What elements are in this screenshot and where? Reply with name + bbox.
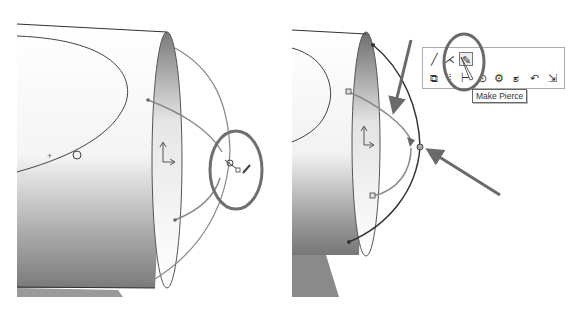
copy-entities-icon[interactable]: ⧉ [427,71,441,85]
repair-icon[interactable]: ⚙ [492,71,506,85]
svg-text:+: + [47,151,52,161]
convert-icon[interactable]: ಶ [509,71,523,85]
tooltip: Make Pierce [472,89,527,103]
relations-icon[interactable]: ⊙ [475,71,489,85]
make-pierce-icon[interactable]: ✎ [459,52,473,66]
dimension-icon[interactable]: ⊢ [459,71,473,85]
right-viewport[interactable]: ╱ ⋌ ✎ ⧉ ⁞ ⊢ ⊙ ⚙ ಶ ↶ ⇲ Make Pierce [289,0,579,314]
callout-arrow-left [433,153,500,195]
left-model-graphic: + [0,0,289,314]
line-icon[interactable]: ╱ [427,52,441,66]
mirror-icon[interactable]: ⁞ [443,71,457,85]
exit-sketch-icon[interactable]: ⇲ [545,71,559,85]
left-viewport[interactable]: + [0,0,289,314]
undo-icon[interactable]: ↶ [527,71,541,85]
sketch-angle-icon[interactable]: ⋌ [442,52,456,66]
context-toolbar: ╱ ⋌ ✎ ⧉ ⁞ ⊢ ⊙ ⚙ ಶ ↶ ⇲ [422,47,565,89]
